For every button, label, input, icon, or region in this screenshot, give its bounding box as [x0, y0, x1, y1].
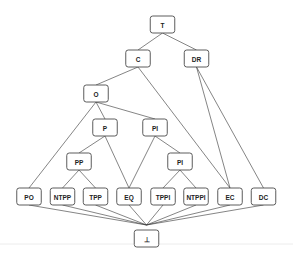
- node-label: O: [93, 91, 98, 98]
- node-label: EQ: [124, 194, 133, 202]
- node-ntpp: NTPP: [50, 188, 75, 205]
- node-tpp: TPP: [83, 188, 108, 205]
- edge-tpp-to-bottom: [96, 205, 147, 225]
- node-dr: DR: [184, 50, 209, 67]
- node-label: T: [161, 22, 165, 29]
- node-ec: EC: [218, 188, 243, 205]
- edge-p-to-eq: [105, 136, 129, 188]
- node-label: TPPI: [156, 194, 171, 201]
- node-eq: EQ: [117, 188, 142, 205]
- edge-eq-to-bottom: [129, 205, 147, 225]
- edge-pi_upper-to-pi_lower: [155, 136, 180, 153]
- edge-p-to-pp: [79, 136, 105, 153]
- node-bottom: ⊥: [134, 230, 159, 247]
- node-pp: PP: [67, 153, 92, 170]
- node-label: PI: [152, 125, 158, 132]
- edge-tppi-to-bottom: [147, 205, 164, 225]
- node-top: T: [150, 16, 175, 33]
- node-label: C: [136, 56, 141, 63]
- edge-c-to-o: [96, 67, 138, 85]
- node-po: PO: [17, 188, 42, 205]
- nodes-group: TCDROPPIPPPIPONTPPTPPEQTPPINTPPIECDC⊥: [17, 16, 276, 247]
- edge-pp-to-ntpp: [63, 170, 80, 188]
- node-dc: DC: [251, 188, 276, 205]
- edge-o-to-po: [29, 102, 96, 188]
- edge-pi_lower-to-ntppi: [180, 170, 196, 188]
- node-tppi: TPPI: [151, 188, 176, 205]
- node-label: P: [103, 125, 108, 132]
- node-ntppi: NTPPI: [184, 188, 209, 205]
- node-pi-lower: PI: [168, 153, 193, 170]
- node-label: NTPPI: [186, 194, 205, 201]
- node-o: O: [84, 85, 109, 102]
- node-label: NTPP: [54, 194, 72, 201]
- node-label: TPP: [89, 194, 102, 201]
- node-c: C: [126, 50, 151, 67]
- edge-o-to-pi_upper: [96, 102, 155, 119]
- edge-ntpp-to-bottom: [63, 205, 147, 225]
- node-label: DC: [259, 194, 269, 201]
- edge-top-to-c: [138, 33, 163, 50]
- node-pi-upper: PI: [143, 119, 168, 136]
- node-label: PP: [75, 159, 84, 166]
- node-label: PO: [24, 194, 33, 201]
- edge-dr-to-ec: [197, 67, 231, 188]
- edge-pp-to-tpp: [79, 170, 96, 188]
- node-label: DR: [192, 56, 202, 63]
- edge-top-to-dr: [163, 33, 197, 50]
- edge-dc-to-bottom: [147, 205, 264, 225]
- node-p: P: [93, 119, 118, 136]
- node-label: ⊥: [144, 236, 150, 243]
- edge-dr-to-dc: [197, 67, 264, 188]
- node-label: PI: [177, 159, 183, 166]
- edge-pi_lower-to-tppi: [163, 170, 180, 188]
- lattice-diagram: TCDROPPIPPPIPONTPPTPPEQTPPINTPPIECDC⊥: [0, 0, 293, 262]
- edge-po-to-bottom: [29, 205, 147, 225]
- node-label: EC: [225, 194, 234, 201]
- edge-pi_upper-to-eq: [129, 136, 155, 188]
- edge-o-to-p: [96, 102, 105, 119]
